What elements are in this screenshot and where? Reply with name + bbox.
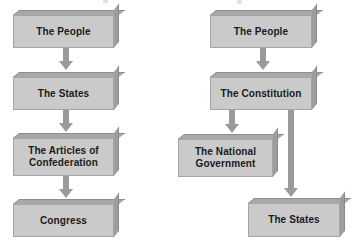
box-side-face xyxy=(114,127,119,176)
arrow-shaft xyxy=(63,48,69,62)
node-left-the-articles-of-confederation[interactable]: The Articles of Confederation xyxy=(13,133,119,176)
box-front-face: The People xyxy=(210,15,312,48)
node-right-the-states[interactable]: The States xyxy=(248,198,345,237)
node-label: The People xyxy=(33,26,93,38)
arrow-right-people-to-constitution xyxy=(255,48,271,70)
arrow-head xyxy=(59,189,73,198)
box-front-face: The States xyxy=(13,77,114,110)
node-label: Congress xyxy=(37,215,90,227)
arrow-shaft xyxy=(63,176,69,190)
box-side-face xyxy=(312,66,317,110)
node-label: The People xyxy=(231,26,291,38)
arrow-head xyxy=(256,61,270,70)
box-side-face xyxy=(114,66,119,110)
node-left-the-people[interactable]: The People xyxy=(13,10,119,48)
arrow-shaft xyxy=(288,110,294,189)
arrow-left-states-to-articles xyxy=(58,110,74,132)
box-front-face: The Constitution xyxy=(210,77,312,110)
box-front-face: The National Government xyxy=(178,139,273,177)
node-right-the-constitution[interactable]: The Constitution xyxy=(210,72,317,110)
node-label: The Constitution xyxy=(217,88,304,100)
scan-artifact-right xyxy=(237,0,242,4)
box-side-face xyxy=(114,4,119,48)
box-front-face: The Articles of Confederation xyxy=(13,138,114,176)
box-side-face xyxy=(114,193,119,237)
box-front-face: The People xyxy=(13,15,114,48)
box-front-face: Congress xyxy=(13,204,114,237)
node-label: The States xyxy=(265,214,323,226)
node-left-congress[interactable]: Congress xyxy=(13,199,119,237)
box-side-face xyxy=(312,4,317,48)
node-label: The Articles of Confederation xyxy=(25,145,102,169)
box-side-face xyxy=(340,192,345,237)
arrow-head xyxy=(59,61,73,70)
arrow-shaft xyxy=(63,110,69,124)
node-right-the-people[interactable]: The People xyxy=(210,10,317,48)
arrow-head xyxy=(225,124,239,133)
node-label: The National Government xyxy=(192,146,259,170)
arrow-left-articles-to-congress xyxy=(58,176,74,198)
node-left-the-states[interactable]: The States xyxy=(13,72,119,110)
box-front-face: The States xyxy=(248,203,340,237)
arrow-right-constitution-to-national-government xyxy=(224,110,240,133)
arrow-left-people-to-states xyxy=(58,48,74,70)
arrow-head xyxy=(59,123,73,132)
arrow-shaft xyxy=(260,48,266,62)
arrow-head xyxy=(284,188,298,197)
arrow-shaft xyxy=(229,110,235,125)
box-side-face xyxy=(273,128,278,177)
flowchart-canvas: The People The States The Articles of Co… xyxy=(0,0,353,250)
node-label: The States xyxy=(35,88,93,100)
arrow-right-constitution-to-states xyxy=(283,110,299,197)
node-right-the-national-government[interactable]: The National Government xyxy=(178,134,278,177)
scan-artifact-left xyxy=(103,0,108,3)
